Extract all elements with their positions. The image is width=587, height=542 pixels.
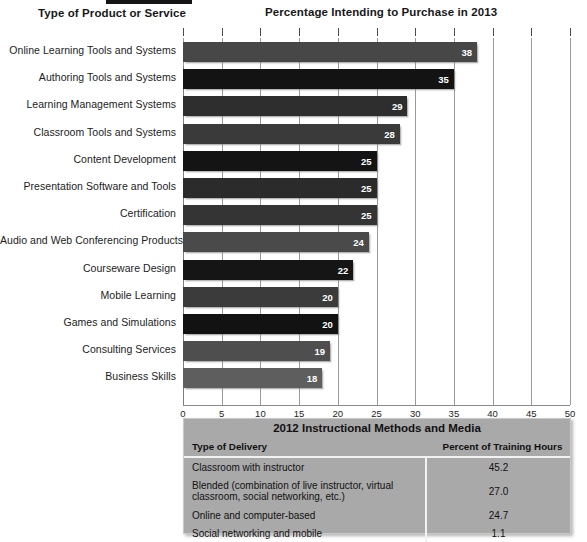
chart-tick-mark (183, 28, 184, 36)
chart-category-label: Authoring Tools and Systems (0, 71, 176, 83)
chart-category-label: Learning Management Systems (0, 98, 176, 110)
chart-category-label: Classroom Tools and Systems (0, 126, 176, 138)
chart-bar-value-label: 24 (353, 237, 364, 248)
table-cell-delivery: Classroom with instructor (184, 458, 427, 476)
chart-tick-mark (260, 28, 261, 36)
bar-chart: Online Learning Tools and Systems38Autho… (0, 28, 587, 410)
table-row: Social networking and mobile1.1 (184, 524, 570, 542)
chart-bar: 18 (183, 368, 322, 388)
chart-bar: 20 (183, 314, 338, 334)
chart-bar-value-label: 22 (338, 264, 349, 275)
table-cell-percent: 24.7 (427, 506, 570, 524)
chart-bar-row: Presentation Software and Tools25 (0, 175, 587, 202)
chart-bar-row: Audio and Web Conferencing Products24 (0, 229, 587, 256)
chart-category-axis-title: Type of Product or Service (38, 7, 218, 19)
table-header-row: Type of Delivery Percent of Training Hou… (184, 437, 570, 458)
chart-tick-mark (377, 28, 378, 36)
chart-bar-row: Business Skills18 (0, 365, 587, 392)
table-body: Classroom with instructor45.2Blended (co… (184, 458, 570, 542)
chart-bar: 35 (183, 69, 454, 89)
instructional-methods-table: 2012 Instructional Methods and Media Typ… (183, 418, 571, 534)
chart-tick-mark (531, 28, 532, 36)
chart-category-label: Courseware Design (0, 262, 176, 274)
chart-category-label: Presentation Software and Tools (0, 180, 176, 192)
chart-category-label: Mobile Learning (0, 289, 176, 301)
chart-tick-mark (570, 28, 571, 36)
table-cell-delivery: Online and computer-based (184, 506, 427, 524)
chart-bar-value-label: 29 (392, 101, 403, 112)
chart-tick-mark (222, 28, 223, 36)
chart-bar-value-label: 25 (361, 210, 372, 221)
chart-bar-row: Online Learning Tools and Systems38 (0, 39, 587, 66)
table-row: Blended (combination of live instructor,… (184, 476, 570, 506)
chart-bar: 25 (183, 178, 377, 198)
chart-bar-row: Courseware Design22 (0, 257, 587, 284)
chart-bar: 22 (183, 260, 353, 280)
table-cell-percent: 45.2 (427, 458, 570, 476)
chart-bar-value-label: 18 (307, 373, 318, 384)
table-col-header-delivery: Type of Delivery (184, 441, 435, 452)
table-col-header-percent: Percent of Training Hours (435, 441, 570, 452)
chart-category-label: Audio and Web Conferencing Products (0, 234, 176, 246)
chart-bar-row: Games and Simulations20 (0, 311, 587, 338)
chart-bar: 24 (183, 232, 369, 252)
chart-bar: 20 (183, 287, 338, 307)
chart-bar: 29 (183, 96, 407, 116)
chart-tick-mark (338, 28, 339, 36)
chart-bar-value-label: 35 (438, 74, 449, 85)
chart-tick-mark (299, 28, 300, 36)
chart-bar: 19 (183, 341, 330, 361)
chart-bar-row: Authoring Tools and Systems35 (0, 66, 587, 93)
chart-bar: 38 (183, 42, 477, 62)
chart-bar-value-label: 38 (462, 47, 473, 58)
chart-bar-row: Consulting Services19 (0, 338, 587, 365)
chart-tick-mark (415, 28, 416, 36)
chart-bar-value-label: 20 (322, 319, 333, 330)
table-cell-percent: 1.1 (427, 524, 570, 542)
chart-x-axis-line (183, 405, 570, 406)
chart-category-label: Games and Simulations (0, 316, 176, 328)
chart-bar-row: Certification25 (0, 202, 587, 229)
chart-bar-row: Mobile Learning20 (0, 284, 587, 311)
table-cell-delivery: Blended (combination of live instructor,… (184, 476, 427, 506)
table-title: 2012 Instructional Methods and Media (184, 419, 570, 437)
chart-bar-row: Learning Management Systems29 (0, 93, 587, 120)
chart-bar: 25 (183, 151, 377, 171)
chart-bar-value-label: 25 (361, 183, 372, 194)
chart-bar: 25 (183, 205, 377, 225)
page-top-clipped-rule (106, 0, 192, 4)
table-cell-delivery: Social networking and mobile (184, 524, 427, 542)
chart-category-label: Content Development (0, 153, 176, 165)
chart-bar-value-label: 20 (322, 291, 333, 302)
chart-bar-value-label: 28 (384, 128, 395, 139)
table-row: Online and computer-based24.7 (184, 506, 570, 524)
table-row: Classroom with instructor45.2 (184, 458, 570, 476)
table-cell-percent: 27.0 (427, 476, 570, 506)
chart-category-label: Online Learning Tools and Systems (0, 44, 176, 56)
chart-bar-row: Content Development25 (0, 148, 587, 175)
chart-bar-value-label: 19 (314, 346, 325, 357)
chart-category-label: Business Skills (0, 370, 176, 382)
chart-bar-row: Classroom Tools and Systems28 (0, 121, 587, 148)
chart-category-label: Certification (0, 207, 176, 219)
chart-tick-mark (454, 28, 455, 36)
chart-category-label: Consulting Services (0, 343, 176, 355)
chart-bar: 28 (183, 124, 400, 144)
chart-title: Percentage Intending to Purchase in 2013 (265, 6, 565, 18)
chart-bar-value-label: 25 (361, 155, 372, 166)
chart-tick-mark (493, 28, 494, 36)
